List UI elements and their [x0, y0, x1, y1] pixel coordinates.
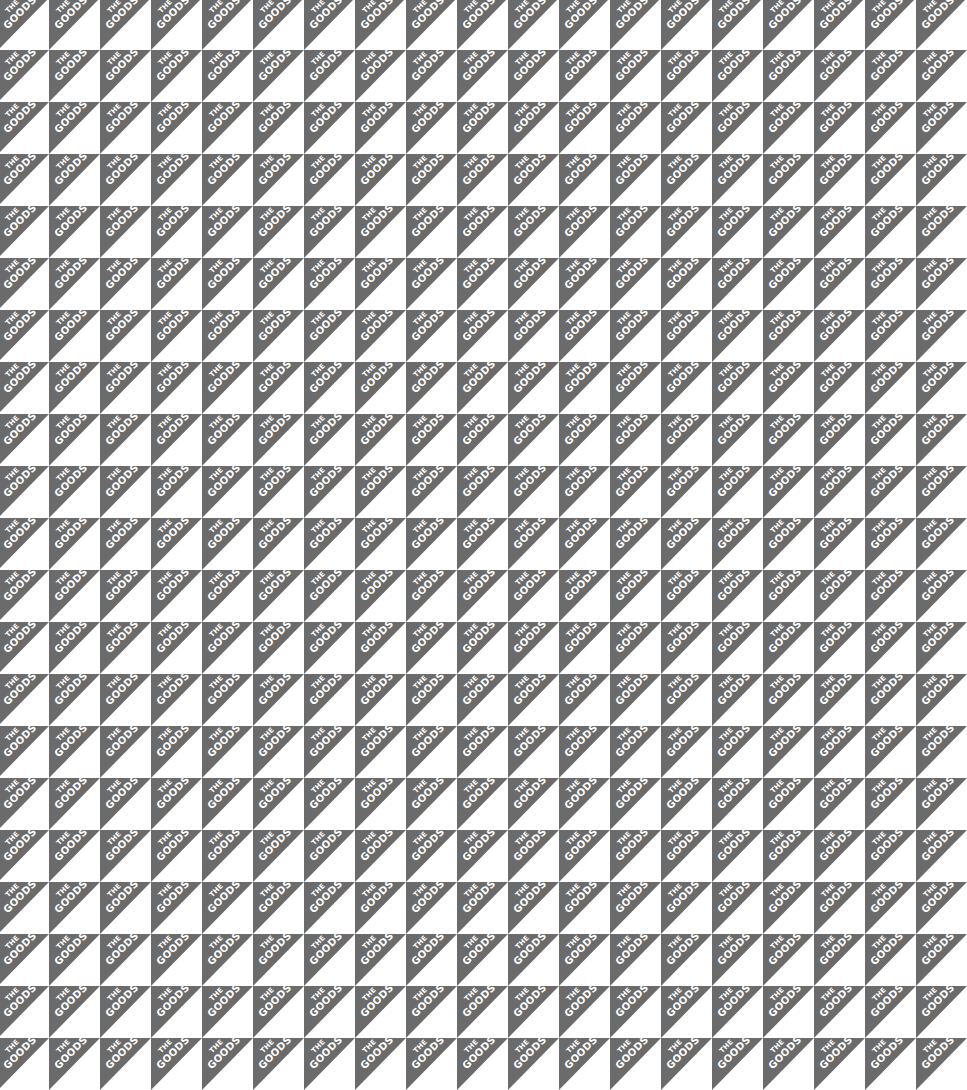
pattern-tile: THEGOODS	[610, 0, 661, 50]
pattern-tile: THEGOODS	[457, 518, 508, 570]
pattern-tile: THEGOODS	[100, 882, 151, 934]
pattern-tile: THEGOODS	[712, 50, 763, 102]
pattern-tile: THEGOODS	[253, 986, 304, 1038]
pattern-tile: THEGOODS	[763, 674, 814, 726]
pattern-tile: THEGOODS	[100, 258, 151, 310]
pattern-tile: THEGOODS	[661, 362, 712, 414]
pattern-tile: THEGOODS	[0, 986, 49, 1038]
pattern-tile: THEGOODS	[763, 518, 814, 570]
pattern-tile: THEGOODS	[508, 830, 559, 882]
pattern-tile: THEGOODS	[49, 0, 100, 50]
pattern-tile: THEGOODS	[406, 466, 457, 518]
pattern-tile: THEGOODS	[610, 258, 661, 310]
pattern-tile: THEGOODS	[100, 154, 151, 206]
pattern-tile: THEGOODS	[253, 622, 304, 674]
pattern-tile: THEGOODS	[304, 674, 355, 726]
pattern-tile: THEGOODS	[508, 310, 559, 362]
pattern-tile: THEGOODS	[253, 0, 304, 50]
pattern-tile: THEGOODS	[304, 518, 355, 570]
pattern-tile: THEGOODS	[865, 830, 916, 882]
pattern-tile: THEGOODS	[304, 258, 355, 310]
pattern-tile: THEGOODS	[763, 206, 814, 258]
pattern-tile: THEGOODS	[355, 466, 406, 518]
pattern-tile: THEGOODS	[712, 778, 763, 830]
pattern-tile: THEGOODS	[916, 414, 967, 466]
pattern-tile: THEGOODS	[253, 258, 304, 310]
pattern-tile: THEGOODS	[610, 466, 661, 518]
pattern-tile: THEGOODS	[355, 0, 406, 50]
pattern-tile: THEGOODS	[865, 154, 916, 206]
pattern-tile: THEGOODS	[0, 778, 49, 830]
pattern-tile: THEGOODS	[253, 102, 304, 154]
pattern-tile: THEGOODS	[355, 570, 406, 622]
pattern-tile: THEGOODS	[865, 258, 916, 310]
pattern-tile: THEGOODS	[355, 882, 406, 934]
pattern-tile: THEGOODS	[457, 310, 508, 362]
pattern-tile: THEGOODS	[457, 882, 508, 934]
pattern-tile: THEGOODS	[763, 934, 814, 986]
pattern-tile: THEGOODS	[355, 414, 406, 466]
pattern-tile: THEGOODS	[661, 0, 712, 50]
pattern-tile: THEGOODS	[151, 986, 202, 1038]
pattern-tile: THEGOODS	[202, 622, 253, 674]
pattern-tile: THEGOODS	[610, 362, 661, 414]
pattern-tile: THEGOODS	[457, 570, 508, 622]
pattern-tile: THEGOODS	[100, 50, 151, 102]
pattern-tile: THEGOODS	[355, 778, 406, 830]
pattern-tile: THEGOODS	[202, 50, 253, 102]
pattern-tile: THEGOODS	[49, 830, 100, 882]
pattern-tile: THEGOODS	[508, 674, 559, 726]
pattern-tile: THEGOODS	[100, 362, 151, 414]
pattern-tile: THEGOODS	[559, 50, 610, 102]
pattern-tile: THEGOODS	[814, 154, 865, 206]
pattern-tile: THEGOODS	[406, 102, 457, 154]
pattern-tile: THEGOODS	[559, 622, 610, 674]
pattern-tile: THEGOODS	[253, 206, 304, 258]
pattern-tile: THEGOODS	[814, 102, 865, 154]
pattern-tile: THEGOODS	[304, 414, 355, 466]
pattern-tile: THEGOODS	[712, 674, 763, 726]
pattern-tile: THEGOODS	[304, 206, 355, 258]
pattern-tile: THEGOODS	[100, 986, 151, 1038]
pattern-tile: THEGOODS	[0, 674, 49, 726]
pattern-tile: THEGOODS	[253, 154, 304, 206]
pattern-tile: THEGOODS	[712, 102, 763, 154]
pattern-tile: THEGOODS	[355, 622, 406, 674]
pattern-tile: THEGOODS	[406, 882, 457, 934]
pattern-tile: THEGOODS	[304, 50, 355, 102]
pattern-tile: THEGOODS	[49, 414, 100, 466]
pattern-tile: THEGOODS	[202, 830, 253, 882]
pattern-tile: THEGOODS	[49, 934, 100, 986]
pattern-tile: THEGOODS	[0, 206, 49, 258]
pattern-tile: THEGOODS	[151, 102, 202, 154]
pattern-tile: THEGOODS	[406, 50, 457, 102]
pattern-tile: THEGOODS	[253, 726, 304, 778]
pattern-tile: THEGOODS	[763, 466, 814, 518]
pattern-tile: THEGOODS	[253, 362, 304, 414]
pattern-tile: THEGOODS	[457, 986, 508, 1038]
pattern-tile: THEGOODS	[253, 310, 304, 362]
pattern-tile: THEGOODS	[253, 778, 304, 830]
pattern-tile: THEGOODS	[814, 830, 865, 882]
pattern-tile: THEGOODS	[151, 622, 202, 674]
pattern-tile: THEGOODS	[559, 778, 610, 830]
pattern-tile: THEGOODS	[151, 362, 202, 414]
pattern-tile: THEGOODS	[406, 622, 457, 674]
pattern-tile: THEGOODS	[0, 310, 49, 362]
pattern-tile: THEGOODS	[457, 830, 508, 882]
pattern-tile: THEGOODS	[100, 674, 151, 726]
pattern-tile: THEGOODS	[508, 1038, 559, 1090]
pattern-tile: THEGOODS	[661, 622, 712, 674]
pattern-tile: THEGOODS	[559, 258, 610, 310]
pattern-tile: THEGOODS	[661, 726, 712, 778]
pattern-tile: THEGOODS	[508, 50, 559, 102]
pattern-tile: THEGOODS	[865, 310, 916, 362]
pattern-tile: THEGOODS	[763, 622, 814, 674]
pattern-tile: THEGOODS	[151, 414, 202, 466]
pattern-tile: THEGOODS	[253, 518, 304, 570]
pattern-tile: THEGOODS	[559, 986, 610, 1038]
pattern-tile: THEGOODS	[253, 570, 304, 622]
pattern-tile: THEGOODS	[457, 726, 508, 778]
pattern-tile: THEGOODS	[559, 310, 610, 362]
pattern-tile: THEGOODS	[508, 414, 559, 466]
